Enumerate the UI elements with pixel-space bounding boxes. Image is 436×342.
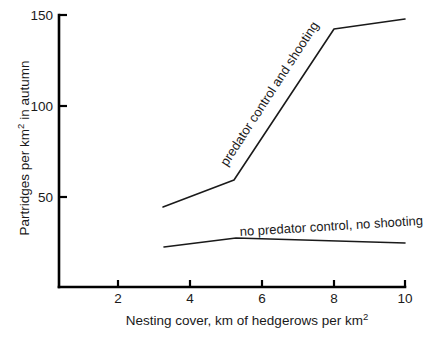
- y-axis-title-base-2: in autumn: [17, 61, 32, 124]
- chart-figure: 150 100 50 2 4 6 8 10 predator control a…: [0, 0, 436, 342]
- line-chart: 150 100 50 2 4 6 8 10 predator control a…: [0, 0, 436, 342]
- y-axis-title: Partridges per km2 in autumn: [15, 61, 33, 236]
- x-axis-title: Nesting cover, km of hedgerows per km2: [126, 311, 368, 329]
- y-tick-label-50: 50: [38, 190, 53, 205]
- series-line-no-predator-control-no-shooting: [164, 238, 405, 247]
- series-label-predator-control-and-shooting: predator control and shooting: [217, 19, 322, 169]
- y-tick-label-150: 150: [30, 8, 53, 23]
- x-axis-tick-labels: 2 4 6 8 10: [114, 291, 412, 306]
- y-axis-tick-labels: 150 100 50: [30, 8, 53, 205]
- y-axis-title-base-1: Partridges per km: [17, 129, 32, 236]
- series-line-predator-control-and-shooting: [163, 19, 405, 207]
- x-tick-label-4: 4: [186, 291, 194, 306]
- series-label-no-predator-control-no-shooting: no predator control, no shooting: [239, 213, 423, 239]
- x-axis-title-superscript: 2: [363, 311, 368, 322]
- y-tick-label-100: 100: [30, 99, 53, 114]
- x-tick-label-6: 6: [258, 291, 266, 306]
- x-tick-label-2: 2: [114, 291, 122, 306]
- x-tick-label-10: 10: [397, 291, 412, 306]
- x-tick-label-8: 8: [330, 291, 338, 306]
- x-axis-title-base: Nesting cover, km of hedgerows per km: [126, 313, 363, 328]
